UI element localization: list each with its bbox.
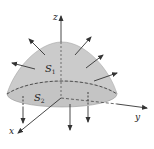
x-axis-label: x: [9, 126, 14, 136]
surface-diagram: z y x S1 S2: [0, 0, 154, 149]
z-axis-label: z: [52, 12, 58, 22]
diagram-canvas: z y x S1 S2: [0, 0, 154, 149]
y-axis-label: y: [134, 112, 141, 122]
y-axis: [117, 104, 147, 108]
